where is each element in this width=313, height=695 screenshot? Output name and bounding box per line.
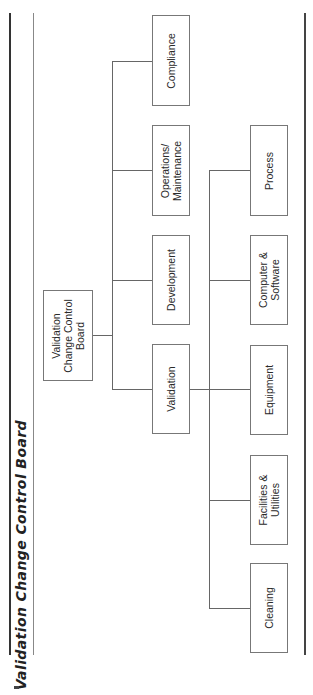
connector-to-operations [112, 170, 152, 171]
diagram-title: Validation Change Control Board [13, 420, 29, 690]
connector-root-to-spine [93, 335, 112, 336]
node-label: Validation [165, 366, 177, 411]
frame-right-rule [304, 13, 306, 655]
node-label: Cleaning [263, 587, 275, 628]
node-label: Computer & Software [257, 252, 281, 308]
page-mark [14, 686, 19, 689]
node-label: Development [165, 249, 177, 311]
frame-title-divider-rule [33, 13, 34, 655]
node-development: Development [152, 235, 190, 325]
connector-to-computer-software [209, 280, 250, 281]
node-label: Validation Change Control Board [50, 299, 86, 373]
frame-left-thick-rule [9, 13, 11, 655]
node-computer-software: Computer & Software [250, 235, 288, 325]
connector-to-compliance [112, 61, 152, 62]
node-operations-maintenance: Operations/ Maintenance [152, 125, 190, 216]
connector-to-validation [112, 389, 152, 390]
node-label: Equipment [263, 365, 275, 415]
node-label: Process [263, 152, 275, 190]
connector-to-process [209, 170, 250, 171]
node-label: Operations/ Maintenance [159, 140, 183, 200]
node-compliance: Compliance [152, 15, 190, 106]
connector-to-cleaning [209, 608, 250, 609]
node-facilities-utilities: Facilities & Utilities [250, 455, 288, 545]
node-validation: Validation [152, 344, 190, 434]
connector-to-facilities [209, 500, 250, 501]
node-label: Compliance [165, 33, 177, 88]
node-root-change-control-board: Validation Change Control Board [43, 290, 93, 381]
node-process: Process [250, 125, 288, 216]
connector-level2-spine [209, 170, 210, 608]
node-label: Facilities & Utilities [257, 475, 281, 526]
node-equipment: Equipment [250, 345, 288, 435]
connector-to-development [112, 280, 152, 281]
connector-level1-spine [112, 61, 113, 390]
node-cleaning: Cleaning [250, 563, 288, 653]
connector-validation-to-level2 [190, 389, 250, 390]
